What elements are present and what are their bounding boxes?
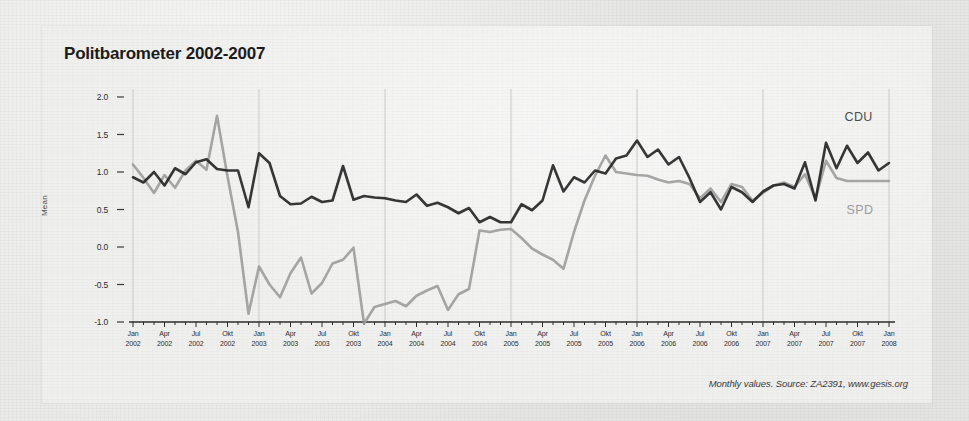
chart-footnote: Monthly values. Source: ZA2391, www.gesi… xyxy=(709,378,908,389)
series-label-spd: SPD xyxy=(847,203,874,217)
series-label-cdu: CDU xyxy=(845,110,873,124)
chart-card: Politbarometer 2002-2007 Mean 2.01.51.00… xyxy=(42,26,932,403)
chart-plot-area xyxy=(42,26,932,403)
